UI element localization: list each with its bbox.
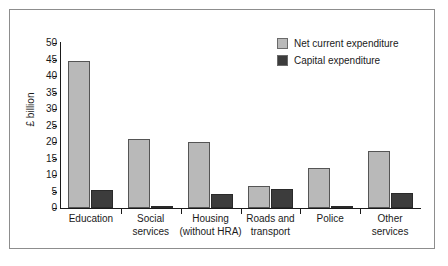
bar-net-current-expenditure — [248, 186, 270, 208]
y-axis-tick-label: 10 — [5, 168, 57, 181]
bar-capital-expenditure — [271, 189, 293, 208]
legend-item: Net current expenditure — [277, 36, 399, 51]
y-axis-tick-mark — [53, 208, 57, 209]
y-axis-tick-mark — [53, 76, 57, 77]
y-axis-tick-mark — [53, 159, 57, 160]
legend-swatch-icon — [277, 38, 288, 49]
bar-capital-expenditure — [91, 190, 113, 208]
legend-label: Capital expenditure — [294, 55, 380, 66]
y-axis-tick-label: 45 — [5, 53, 57, 66]
y-axis-tick-mark — [53, 126, 57, 127]
y-axis-label: £ billion — [25, 70, 36, 150]
y-axis-tick-mark — [53, 60, 57, 61]
chart-figure: 50454035302520151050 £ billion Net curre… — [0, 0, 448, 266]
y-axis-tick-mark — [53, 142, 57, 143]
bar-net-current-expenditure — [368, 151, 390, 208]
bar-capital-expenditure — [151, 206, 173, 208]
y-axis-tick-label: 0 — [5, 201, 57, 214]
y-axis-tick-mark — [53, 192, 57, 193]
y-axis-tick-mark — [53, 109, 57, 110]
y-axis-tick-mark — [53, 175, 57, 176]
y-axis-tick-mark — [53, 43, 57, 44]
y-axis-tick-label: 50 — [5, 36, 57, 49]
y-axis-tick-label: 5 — [5, 185, 57, 198]
y-axis-tick-mark — [53, 93, 57, 94]
bar-net-current-expenditure — [68, 61, 90, 209]
x-axis-tick-label-line: services — [350, 226, 430, 239]
legend-swatch-icon — [277, 55, 288, 66]
bar-capital-expenditure — [391, 193, 413, 209]
bar-capital-expenditure — [331, 206, 353, 208]
bar-net-current-expenditure — [308, 168, 330, 208]
x-axis-tick-label: Otherservices — [350, 213, 430, 238]
bar-net-current-expenditure — [128, 139, 150, 208]
bar-net-current-expenditure — [188, 142, 210, 208]
x-axis-tick-label-line: Other — [350, 213, 430, 226]
x-axis-tick-label-line: transport — [231, 226, 311, 239]
legend-item: Capital expenditure — [277, 53, 399, 68]
bar-capital-expenditure — [211, 194, 233, 208]
chart-legend: Net current expenditureCapital expenditu… — [277, 36, 399, 70]
legend-label: Net current expenditure — [294, 38, 399, 49]
y-axis-tick-label: 15 — [5, 152, 57, 165]
